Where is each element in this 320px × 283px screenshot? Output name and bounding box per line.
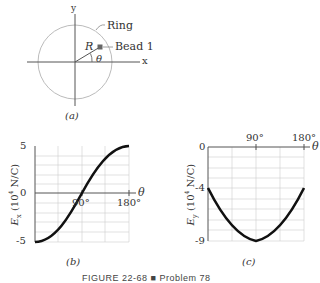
figure-caption: FIGURE 22-68 ■ Problem 78	[82, 273, 210, 283]
c-xtick-90: 90°	[246, 132, 264, 143]
x-axis-label: x	[142, 55, 148, 66]
bead-label: Bead 1	[115, 40, 154, 53]
c-ytick-neg9: -9	[195, 235, 205, 246]
c-ylabel: Ey (104 N/C)	[183, 164, 198, 226]
panel-b-label: (b)	[66, 256, 80, 267]
panel-c-label: (c)	[242, 256, 255, 267]
ring-label: Ring	[107, 19, 133, 32]
c-ytick-0: 0	[199, 141, 205, 152]
panel-a-label: (a)	[65, 110, 79, 121]
b-ytick-neg5: -5	[16, 235, 26, 246]
c-xlabel: θ	[312, 140, 319, 153]
b-ylabel: Ex (104 N/C)	[7, 164, 22, 226]
b-xlabel: θ	[138, 186, 145, 199]
y-axis-label: y	[71, 3, 76, 13]
radius-label: R	[85, 40, 93, 53]
b-ytick-5: 5	[20, 140, 26, 151]
b-xtick-90: 90°	[72, 197, 90, 208]
angle-label: θ	[96, 53, 102, 64]
